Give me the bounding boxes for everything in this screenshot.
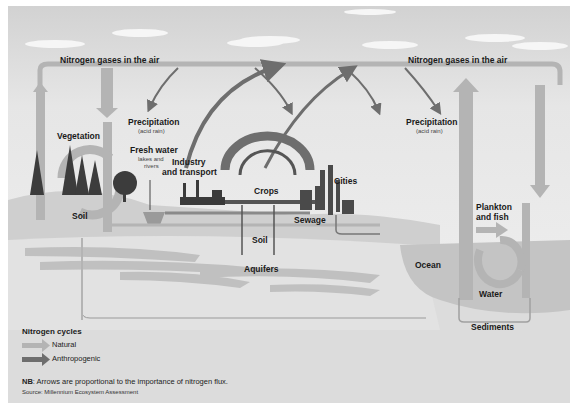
legend-label-natural: Natural xyxy=(52,340,76,349)
aquifers-label: Aquifers xyxy=(244,264,278,274)
plankton-label-line2: and fish xyxy=(476,212,509,222)
precipitation-right-sub: (acid rain) xyxy=(416,128,443,135)
fresh-water-sub1: lakes and xyxy=(138,156,164,163)
note-text: NB: Arrows are proportional to the impor… xyxy=(22,377,228,386)
air-label-right: Nitrogen gases in the air xyxy=(408,55,507,65)
sewage-label: Sewage xyxy=(294,215,326,225)
crops-label: Crops xyxy=(254,186,279,196)
water-label: Water xyxy=(479,289,502,299)
plankton-label: Plankton xyxy=(476,202,512,212)
sediments-label: Sediments xyxy=(471,322,514,332)
precipitation-right-label: Precipitation xyxy=(406,117,457,127)
cities-label: Cities xyxy=(334,176,357,186)
factory xyxy=(180,180,225,205)
note-prefix: NB xyxy=(22,377,33,386)
ocean-label: Ocean xyxy=(415,260,441,270)
vegetation-label: Vegetation xyxy=(57,131,100,141)
industry-label: Industry xyxy=(172,157,206,167)
clouds xyxy=(25,9,568,50)
legend-item-natural: Natural xyxy=(52,340,76,349)
soil-left-label: Soil xyxy=(72,211,88,221)
legend-label-anthropogenic: Anthropogenic xyxy=(52,354,100,363)
city-buildings xyxy=(300,165,354,215)
source-credit: Source: Millennium Ecosystem Assessment xyxy=(22,389,138,395)
legend-title: Nitrogen cycles xyxy=(22,327,82,336)
air-label-left: Nitrogen gases in the air xyxy=(60,55,159,65)
soil-center-label: Soil xyxy=(252,235,268,245)
legend-item-anthropogenic: Anthropogenic xyxy=(52,354,100,363)
precipitation-left-label: Precipitation xyxy=(128,117,179,127)
note-body: : Arrows are proportional to the importa… xyxy=(33,377,228,386)
fresh-water-sub2: rivers xyxy=(144,163,159,170)
fresh-water-label: Fresh water xyxy=(130,145,178,155)
precipitation-left-sub: (acid rain) xyxy=(138,128,165,135)
industry-label-line2: and transport xyxy=(162,167,217,177)
